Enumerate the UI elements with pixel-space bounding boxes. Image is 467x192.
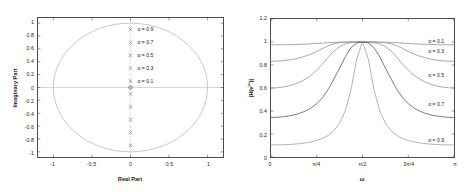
x-axis-title-left: Real Part xyxy=(118,176,142,182)
y-axis-title-right-text: |H(ejω)| xyxy=(248,79,254,97)
y-axis-title-right: |H(ejω)| xyxy=(247,79,254,97)
x-axis-title-right: ω xyxy=(360,176,365,182)
y-tick-label: 0 xyxy=(249,155,267,161)
x-tick-label: 1 xyxy=(207,161,210,167)
series-annotation: α = 0.5 xyxy=(428,72,444,78)
series-annotation: α = 0.9 xyxy=(138,26,154,32)
pole-zero-panel: -1-0.500.5110.80.60.40.20-0.2-0.4-0.6-0.… xyxy=(0,0,234,192)
x-tick-label: 0.5 xyxy=(166,161,174,167)
y-tick-label: 0.4 xyxy=(17,58,34,64)
y-tick-label: -0.8 xyxy=(17,137,34,143)
y-tick-label: 1 xyxy=(249,38,267,44)
x-tick-label: 0 xyxy=(269,161,272,167)
y-tick-label: 0.8 xyxy=(17,32,34,38)
series-annotation: α = 0.5 xyxy=(138,52,154,58)
figure-canvas: -1-0.500.5110.80.60.40.20-0.2-0.4-0.6-0.… xyxy=(0,0,467,192)
y-tick-label: 0.2 xyxy=(249,132,267,138)
y-tick-label: -0.2 xyxy=(17,98,34,104)
x-tick-label: π/2 xyxy=(358,161,366,167)
x-tick-label: 0 xyxy=(129,161,132,167)
series-annotation: α = 0.3 xyxy=(138,65,154,71)
x-tick-label: π xyxy=(453,161,457,167)
y-tick-label: 1.2 xyxy=(249,15,267,21)
y-tick-label: 0.6 xyxy=(17,45,34,51)
series-annotation: α = 0.1 xyxy=(138,78,154,84)
y-tick-label: -0.6 xyxy=(17,124,34,130)
y-tick-label: 0.2 xyxy=(17,71,34,77)
pole-zero-axes xyxy=(37,17,224,158)
y-tick-label: -0.4 xyxy=(17,111,34,117)
x-tick-label: 3π/4 xyxy=(403,161,414,167)
x-tick-label: -1 xyxy=(50,161,55,167)
series-annotation: α = 0.1 xyxy=(428,38,444,44)
magnitude-response-panel: 0π/4π/23π/4π00.20.40.60.811.2 ω |H(ejω)|… xyxy=(234,0,467,192)
y-tick-label: 0 xyxy=(17,85,34,91)
y-axis-title-left: Imaginary Part xyxy=(12,69,18,108)
x-tick-label: -0.5 xyxy=(87,161,96,167)
y-tick-label: 1 xyxy=(17,19,34,25)
series-annotation: α = 0.9 xyxy=(428,137,444,143)
series-annotation: α = 0.7 xyxy=(428,101,444,107)
y-tick-label: 0.8 xyxy=(249,62,267,68)
pole-zero-canvas xyxy=(38,18,223,157)
x-tick-label: π/4 xyxy=(312,161,320,167)
y-tick-label: 0.4 xyxy=(249,108,267,114)
y-tick-label: -1 xyxy=(17,150,34,156)
series-annotation: α = 0.3 xyxy=(428,48,444,54)
magnitude-response-canvas xyxy=(271,19,454,157)
series-annotation: α = 0.7 xyxy=(138,39,154,45)
